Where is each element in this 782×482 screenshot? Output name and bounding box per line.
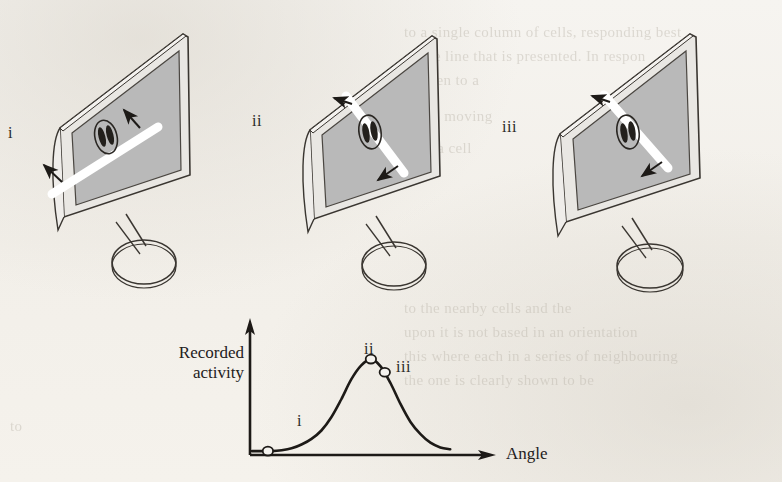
curve-label-ii: ii [364,340,374,358]
monitor-base-rim-ii [362,246,426,290]
panel-label-ii: ii [252,112,262,130]
curve-point-marker-i [263,447,273,456]
tuning-curve-line [252,359,450,451]
monitor-base-ii [362,242,426,286]
monitor-panel-iii [553,34,700,292]
x-axis-label: Angle [506,444,548,464]
monitor-base-rim-iii [617,248,683,292]
figure-root: to a single column of cells, responding … [0,0,782,482]
figure-illustration [0,0,782,482]
panel-label-iii: iii [502,118,517,136]
curve-label-i: i [297,412,302,430]
monitor-base-i [112,240,176,284]
y-axis-label-line2: activity [152,363,244,383]
monitor-neck-edge-i [116,222,140,254]
y-axis-label: Recorded activity [152,343,244,382]
y-axis-label-line1: Recorded [152,343,244,363]
panel-label-i: i [8,124,13,142]
monitor-neck-edge-ii [366,224,390,256]
monitor-base-rim-i [112,244,176,288]
monitor-panel-ii [303,36,440,290]
curve-point-marker-iii [380,368,390,377]
monitor-base-iii [617,244,683,288]
tuning-curve-markers [263,355,390,456]
monitor-neck-edge-iii [622,226,646,258]
curve-label-iii: iii [396,358,411,376]
monitor-panel-i [44,34,190,288]
